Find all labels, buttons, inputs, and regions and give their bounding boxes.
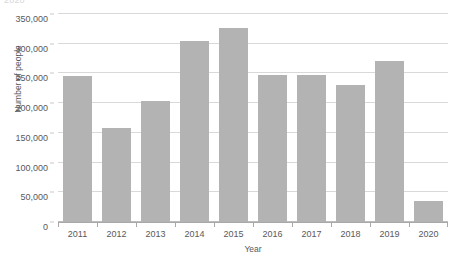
bar-series bbox=[58, 14, 448, 222]
bar-2018[interactable] bbox=[336, 85, 364, 222]
x-axis-tick-label: 2017 bbox=[292, 229, 331, 239]
y-axis-tick-mark bbox=[50, 222, 54, 223]
x-axis-tick-slot bbox=[175, 223, 214, 227]
x-axis-tick-slot bbox=[253, 223, 292, 227]
bar-chart: 2020 Number of people 050,000100,000150,… bbox=[0, 0, 452, 260]
y-axis-tick-labels: 050,000100,000150,000200,000250,000300,0… bbox=[0, 14, 54, 222]
x-axis-tick-mark bbox=[409, 223, 410, 227]
x-axis-tick-label: 2012 bbox=[97, 229, 136, 239]
x-axis-tick-label: 2014 bbox=[175, 229, 214, 239]
x-axis-tick-label: 2013 bbox=[136, 229, 175, 239]
y-axis-tick-mark bbox=[50, 103, 54, 104]
x-axis-tick-mark bbox=[292, 223, 293, 227]
x-axis-tick-label: 2015 bbox=[214, 229, 253, 239]
x-axis-tick-mark bbox=[97, 223, 98, 227]
x-axis-tick-slot bbox=[214, 223, 253, 227]
x-axis-tick-mark bbox=[331, 223, 332, 227]
x-axis-tick-label: 2019 bbox=[370, 229, 409, 239]
x-axis-tick-mark bbox=[447, 223, 448, 227]
y-axis-tick-mark bbox=[50, 162, 54, 163]
clipped-top-text: 2020 bbox=[4, 0, 25, 4]
bar-slot bbox=[253, 14, 292, 222]
x-axis-tick-mark bbox=[175, 223, 176, 227]
x-axis-tick-slot bbox=[409, 223, 448, 227]
bar-2011[interactable] bbox=[63, 76, 91, 222]
x-axis-tick-mark bbox=[214, 223, 215, 227]
bar-slot bbox=[370, 14, 409, 222]
bar-slot bbox=[97, 14, 136, 222]
bar-2014[interactable] bbox=[180, 41, 208, 222]
x-axis-title: Year bbox=[58, 244, 448, 254]
bar-2013[interactable] bbox=[141, 101, 169, 222]
bar-slot bbox=[214, 14, 253, 222]
x-axis-tick-slot bbox=[97, 223, 136, 227]
y-axis-tick-mark bbox=[50, 14, 54, 15]
x-axis-tick-labels: 2011201220132014201520162017201820192020 bbox=[58, 229, 448, 239]
x-axis-ticks bbox=[58, 223, 448, 227]
x-axis-tick-mark bbox=[136, 223, 137, 227]
bar-2015[interactable] bbox=[219, 28, 247, 222]
bar-2020[interactable] bbox=[414, 201, 442, 222]
bar-slot bbox=[331, 14, 370, 222]
x-axis-tick-mark bbox=[58, 223, 59, 227]
x-axis-tick-label: 2011 bbox=[58, 229, 97, 239]
y-axis-tick-mark bbox=[50, 132, 54, 133]
x-axis-tick-slot bbox=[58, 223, 97, 227]
x-axis-tick-slot bbox=[292, 223, 331, 227]
x-axis-tick-mark bbox=[253, 223, 254, 227]
bar-slot bbox=[409, 14, 448, 222]
x-axis-tick-label: 2016 bbox=[253, 229, 292, 239]
x-axis-tick-label: 2020 bbox=[409, 229, 448, 239]
bar-2019[interactable] bbox=[375, 61, 403, 222]
bar-slot bbox=[136, 14, 175, 222]
bar-2017[interactable] bbox=[297, 75, 325, 222]
y-axis-tick-mark bbox=[50, 73, 54, 74]
y-axis-tick-mark bbox=[50, 43, 54, 44]
x-axis-tick-slot bbox=[370, 223, 409, 227]
bar-slot bbox=[175, 14, 214, 222]
x-axis-tick-slot bbox=[136, 223, 175, 227]
bar-slot bbox=[58, 14, 97, 222]
plot-area bbox=[58, 14, 448, 222]
bar-2016[interactable] bbox=[258, 75, 286, 222]
bar-2012[interactable] bbox=[102, 128, 130, 222]
x-axis-tick-slot bbox=[331, 223, 370, 227]
x-axis-tick-label: 2018 bbox=[331, 229, 370, 239]
bar-slot bbox=[292, 14, 331, 222]
x-axis-tick-mark bbox=[370, 223, 371, 227]
y-axis-tick-mark bbox=[50, 192, 54, 193]
